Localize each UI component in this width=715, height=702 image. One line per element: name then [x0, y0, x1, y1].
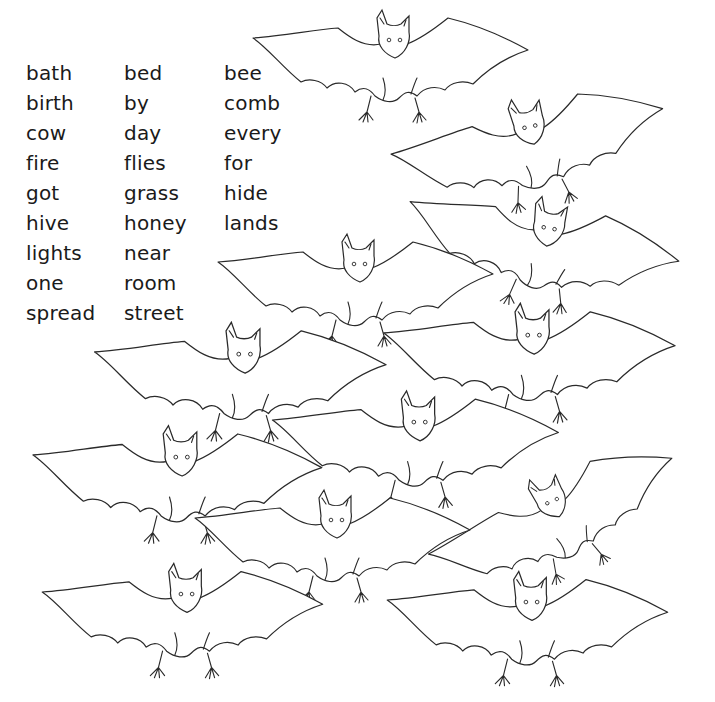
- word-column-1: bath birth cow fire got hive lights one …: [26, 58, 124, 328]
- word: hive: [26, 208, 124, 238]
- bat-7: [272, 391, 558, 509]
- word: spread: [26, 298, 124, 328]
- word: cow: [26, 118, 124, 148]
- bat-11: [42, 563, 323, 678]
- word: street: [124, 298, 224, 328]
- word: flies: [124, 148, 224, 178]
- word: every: [224, 118, 304, 148]
- word: near: [124, 238, 224, 268]
- word: hide: [224, 178, 304, 208]
- word: bed: [124, 58, 224, 88]
- bat-12: [387, 571, 668, 686]
- word: one: [26, 268, 124, 298]
- word-column-2: bed by day flies grass honey near room s…: [124, 58, 224, 328]
- word-list: bath birth cow fire got hive lights one …: [26, 58, 304, 328]
- word: lights: [26, 238, 124, 268]
- word: lands: [224, 208, 304, 238]
- word: by: [124, 88, 224, 118]
- word-column-3: bee comb every for hide lands: [224, 58, 304, 328]
- word: day: [124, 118, 224, 148]
- word: comb: [224, 88, 304, 118]
- word: bee: [224, 58, 304, 88]
- word: bath: [26, 58, 124, 88]
- word: room: [124, 268, 224, 298]
- word: for: [224, 148, 304, 178]
- worksheet-page: bath birth cow fire got hive lights one …: [0, 0, 715, 702]
- word: got: [26, 178, 124, 208]
- word: fire: [26, 148, 124, 178]
- word: grass: [124, 178, 224, 208]
- word: birth: [26, 88, 124, 118]
- word: honey: [124, 208, 224, 238]
